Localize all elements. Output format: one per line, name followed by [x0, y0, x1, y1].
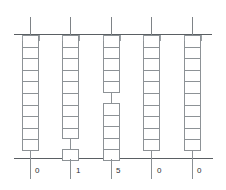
cell-stack: [184, 35, 201, 151]
stack-cell[interactable]: [184, 116, 201, 128]
stack-cell[interactable]: [184, 128, 201, 140]
stack-cell[interactable]: [184, 58, 201, 70]
axis-digit-label: 0: [35, 166, 39, 176]
minor-tick-mark: [79, 35, 80, 41]
stack-cell[interactable]: [22, 139, 39, 151]
top-tick-mark: [70, 17, 71, 35]
stack-cell[interactable]: [184, 105, 201, 117]
stack-cell[interactable]: [103, 138, 120, 150]
label-tick-mark: [70, 159, 71, 179]
label-tick-mark: [111, 159, 112, 179]
top-tick-mark: [151, 17, 152, 35]
stack-cell[interactable]: [143, 116, 160, 128]
minor-tick-mark: [143, 35, 144, 41]
stack-cell[interactable]: [62, 93, 79, 105]
stack-cell[interactable]: [103, 35, 120, 47]
stack-cell[interactable]: [184, 47, 201, 59]
top-tick-mark: [111, 17, 112, 35]
minor-tick-mark: [184, 35, 185, 41]
minor-tick-mark: [22, 35, 23, 41]
stack-cell[interactable]: [143, 93, 160, 105]
axis-digit-label: 0: [157, 166, 161, 176]
diagram-canvas: 01500: [0, 0, 226, 190]
stack-cell[interactable]: [22, 105, 39, 117]
stack-cell[interactable]: [22, 116, 39, 128]
stack-cell[interactable]: [184, 139, 201, 151]
minor-tick-mark: [120, 35, 121, 41]
stack-cell[interactable]: [22, 81, 39, 93]
stack-cell[interactable]: [143, 81, 160, 93]
minor-tick-mark: [160, 35, 161, 41]
stack-cell[interactable]: [143, 35, 160, 47]
axis-digit-label: 1: [76, 166, 80, 176]
stack-cell[interactable]: [62, 81, 79, 93]
top-tick-mark: [30, 17, 31, 35]
stack-cell[interactable]: [103, 58, 120, 70]
stack-cell[interactable]: [184, 35, 201, 47]
cell-stack: [103, 35, 120, 93]
minor-tick-mark: [103, 35, 104, 41]
stack-cell[interactable]: [103, 70, 120, 82]
stack-cell[interactable]: [103, 126, 120, 138]
stack-cell[interactable]: [143, 58, 160, 70]
minor-tick-mark: [201, 35, 202, 41]
stack-cell[interactable]: [62, 47, 79, 59]
stack-cell[interactable]: [22, 93, 39, 105]
axis-digit-label: 0: [197, 166, 201, 176]
minor-tick-mark: [62, 35, 63, 41]
stack-cell[interactable]: [22, 58, 39, 70]
stack-cell[interactable]: [62, 128, 79, 140]
label-tick-mark: [151, 159, 152, 179]
cell-stack: [103, 103, 120, 161]
cell-stack: [62, 35, 79, 139]
label-tick-mark: [192, 159, 193, 179]
stack-cell[interactable]: [103, 47, 120, 59]
cell-stack: [143, 35, 160, 151]
stack-cell[interactable]: [143, 139, 160, 151]
stack-cell[interactable]: [103, 81, 120, 93]
stack-cell[interactable]: [143, 47, 160, 59]
stack-cell[interactable]: [22, 70, 39, 82]
cell-stack: [22, 35, 39, 151]
stack-cell[interactable]: [143, 105, 160, 117]
top-tick-mark: [192, 17, 193, 35]
stack-cell[interactable]: [22, 128, 39, 140]
stack-cell[interactable]: [103, 115, 120, 127]
stack-cell[interactable]: [62, 116, 79, 128]
stack-cell[interactable]: [143, 128, 160, 140]
label-tick-mark: [30, 159, 31, 179]
stack-cell[interactable]: [103, 103, 120, 115]
stack-cell[interactable]: [184, 81, 201, 93]
stack-cell[interactable]: [184, 70, 201, 82]
stack-cell[interactable]: [62, 58, 79, 70]
stack-cell[interactable]: [143, 70, 160, 82]
axis-digit-label: 5: [116, 166, 120, 176]
stack-cell[interactable]: [62, 70, 79, 82]
minor-tick-mark: [39, 35, 40, 41]
stack-cell[interactable]: [22, 35, 39, 47]
stack-cell[interactable]: [62, 105, 79, 117]
stack-cell[interactable]: [184, 93, 201, 105]
stack-cell[interactable]: [22, 47, 39, 59]
stack-cell[interactable]: [62, 35, 79, 47]
